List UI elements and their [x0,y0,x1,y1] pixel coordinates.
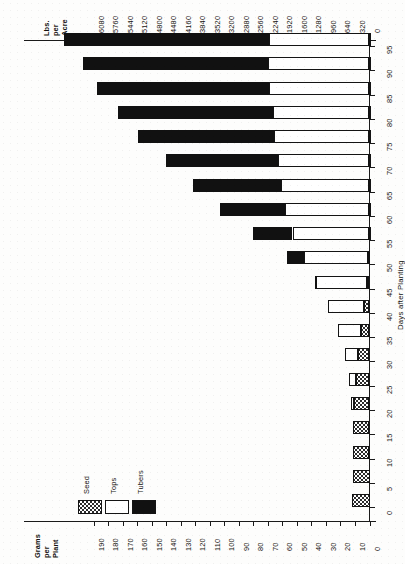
bar-segment-seed [369,82,371,95]
bottom-axis-tick [239,522,240,526]
bar [0,494,405,507]
bar-segment-seed [369,179,371,192]
category-axis-tick-label: 55 [385,239,394,248]
top-axis-tick-label: 2240 [271,16,280,33]
category-axis-tick [370,507,375,508]
bottom-axis-tick-label: 10 [358,542,367,551]
top-axis-tick-label: 1920 [285,16,294,33]
legend-swatch-tops [105,500,129,514]
bottom-axis-tick-label: 150 [155,538,164,551]
bar-segment-seed [361,324,369,337]
bar [0,446,405,459]
bar [0,130,405,143]
bar-segment-seed [358,348,369,361]
category-axis-tick [370,386,375,387]
category-axis-tick [370,264,375,265]
bar-segment-tubers [138,130,275,143]
bar-segment-seed [369,33,371,46]
bottom-axis-tick-label: 40 [314,542,323,551]
bar-segment-tubers [97,82,269,95]
bar-segment-seed [369,203,371,216]
bar [0,300,405,313]
top-axis-tick-label: 640 [343,20,352,33]
bar-segment-tubers [253,227,293,240]
top-axis-tick-label: 1280 [314,16,323,33]
category-axis-tick [370,459,375,460]
bar [0,397,405,410]
bottom-axis-tick [340,522,341,526]
category-axis-tick-label: 70 [385,167,394,176]
bar-segment-tubers [315,276,317,289]
legend-swatch-seed [78,500,102,514]
bar-segment-tops [328,300,364,313]
bar-segment-tubers [64,33,269,46]
bar-segment-tops [281,179,369,192]
bottom-axis-tick-label: 90 [242,542,251,551]
bar [0,106,405,119]
bar-segment-seed [367,276,370,289]
bar-segment-tops [351,397,354,410]
bottom-axis-tick-label: 130 [184,538,193,551]
category-axis-tick [370,483,375,484]
top-axis-tick-label: 5440 [126,16,135,33]
top-axis-tick-label: 2880 [242,16,251,33]
bar-segment-seed [353,421,369,434]
bar-segment-tops [285,203,369,216]
category-axis-tick-label: 25 [385,385,394,394]
category-axis-tick [370,337,375,338]
bottom-axis-title-line-3: Plant [51,539,60,558]
category-axis-tick-label: 0 [385,511,394,515]
top-axis-tick-label: 960 [329,20,338,33]
category-axis-tick-label: 80 [385,118,394,127]
bar [0,179,405,192]
category-axis-tick [370,434,375,435]
category-axis-tick [370,313,375,314]
bar-segment-tubers [287,251,303,264]
category-axis-tick-label: 45 [385,288,394,297]
bar [0,203,405,216]
top-axis-tick-label: 4160 [184,16,193,33]
legend: SeedTopsTubers [78,452,168,524]
category-axis-tick-label: 15 [385,434,394,443]
bottom-axis-tick-label: 190 [97,538,106,551]
category-axis-tick [370,46,375,47]
bottom-axis-tick-label: 60 [285,542,294,551]
category-axis-title: Days after Planting [396,260,405,330]
category-axis-tick [370,240,375,241]
category-axis-tick-label: 35 [385,337,394,346]
bottom-axis-tick-label: 120 [198,538,207,551]
bar-segment-tops [268,57,369,70]
bar-segment-tops [273,106,369,119]
bar-segment-tops [304,251,369,264]
top-axis-tick-label: 320 [358,20,367,33]
bottom-axis-tick [370,522,371,526]
bottom-axis-tick-label: 110 [213,539,222,551]
chart-figure: Lbs. per Acre 60805760544051204800448041… [0,0,405,564]
bottom-axis-tick-label: 20 [343,542,352,551]
bar [0,82,405,95]
legend-label-tubers: Tubers [136,470,145,494]
bar-segment-tubers [83,57,268,70]
category-axis-tick-label: 65 [385,191,394,200]
category-axis-tick-label: 90 [385,70,394,79]
bottom-axis-tick-label: 30 [329,542,338,551]
bar [0,33,405,46]
bar-segment-tubers [220,203,285,216]
bar [0,57,405,70]
bar-segment-tubers [166,154,278,167]
bottom-axis-tick-label: 160 [140,538,149,551]
bottom-axis-tick-label: 80 [256,542,265,551]
top-axis-tick-label: 3840 [198,16,207,33]
top-axis-tick-label: 1600 [300,16,309,33]
top-axis-tick-label: 4480 [169,16,178,33]
category-axis-tick-label: 95 [385,45,394,54]
bottom-axis-tick-label: 70 [271,542,280,551]
category-axis-tick [370,192,375,193]
bottom-axis-tick-label: 100 [227,538,236,551]
bar [0,154,405,167]
legend-label-seed: Seed [82,476,91,494]
bottom-axis-tick [268,522,269,526]
category-axis-tick-label: 5 [385,486,394,490]
bar-segment-seed [352,494,369,507]
bar [0,470,405,483]
